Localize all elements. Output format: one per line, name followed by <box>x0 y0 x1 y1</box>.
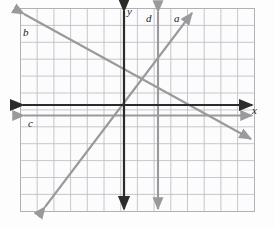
axis-label-y: y <box>127 6 132 17</box>
line-label-b: b <box>23 27 29 38</box>
coordinate-plane-figure: b d a c y x <box>0 0 275 228</box>
line-label-d: d <box>146 13 152 24</box>
axis-label-x: x <box>252 105 257 116</box>
line-label-c: c <box>28 118 33 129</box>
graph-canvas <box>0 0 275 228</box>
line-label-a: a <box>174 13 180 24</box>
